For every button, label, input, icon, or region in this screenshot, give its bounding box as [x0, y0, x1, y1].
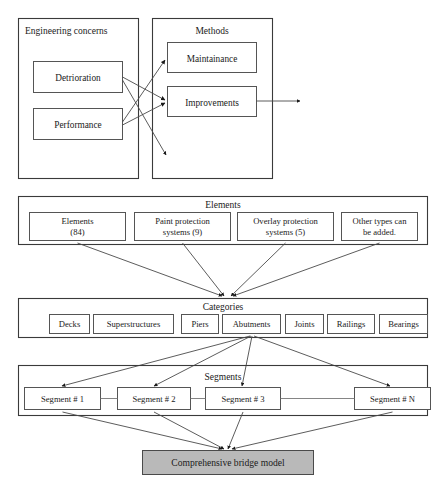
panel-elements-title: Elements — [205, 200, 241, 210]
node-comprehensive-bridge-model[interactable]: Comprehensive bridge model — [143, 451, 314, 475]
node-segment-1[interactable]: Segment # 1 — [25, 388, 101, 410]
node-abutments-label: Abutments — [233, 319, 271, 329]
node-segment-2-label: Segment # 2 — [133, 394, 176, 404]
node-joints[interactable]: Joints — [286, 315, 324, 334]
node-piers-label: Piers — [191, 319, 209, 329]
node-comprehensive-bridge-model-label: Comprehensive bridge model — [171, 457, 285, 468]
node-abutments[interactable]: Abutments — [223, 315, 281, 334]
node-other-types-line1: Other types can — [353, 216, 408, 226]
node-piers[interactable]: Piers — [182, 315, 219, 334]
panel-segments-title: Segments — [205, 372, 242, 382]
node-segment-2[interactable]: Segment # 2 — [118, 388, 191, 410]
connector-abutments-to-segmentN — [254, 336, 390, 386]
node-paint-protection-systems-line1: Paint protection — [155, 216, 210, 226]
connector-other-to-categories — [233, 243, 380, 296]
connector-elements84-to-categories — [78, 243, 223, 296]
node-segment-n[interactable]: Segment # N — [355, 388, 431, 410]
node-decks-label: Decks — [59, 319, 81, 329]
node-paint-protection-systems-line2: systems (9) — [163, 227, 203, 237]
connector-segment3-to-output — [228, 412, 243, 449]
connector-paint-to-categories — [183, 243, 225, 296]
panel-segments: Segments Segment # 1 Segment # 2 Segment… — [19, 366, 431, 416]
node-overlay-protection-systems[interactable]: Overlay protection systems (5) — [238, 213, 334, 241]
connector-abutments-to-segment3 — [242, 336, 252, 386]
node-superstructures[interactable]: Superstructures — [94, 315, 174, 334]
node-decks[interactable]: Decks — [50, 315, 90, 334]
node-elements-84[interactable]: Elements (84) — [30, 213, 126, 241]
node-maintainance[interactable]: Maintainance — [168, 43, 257, 73]
diagram-canvas: Engineering concerns Detrioration Perfor… — [0, 0, 446, 489]
connector-overlay-to-categories — [231, 243, 286, 296]
node-other-types[interactable]: Other types can be added. — [342, 213, 418, 241]
panel-engineering-concerns: Engineering concerns Detrioration Perfor… — [19, 19, 139, 179]
node-detrioration[interactable]: Detrioration — [34, 62, 123, 93]
connector-detrioration-to-improvements — [123, 77, 166, 100]
node-segment-n-label: Segment # N — [370, 394, 416, 404]
node-joints-label: Joints — [294, 319, 315, 329]
panel-engineering-concerns-frame — [19, 19, 139, 179]
node-railings[interactable]: Railings — [328, 315, 375, 334]
node-other-types-line2: be added. — [363, 227, 396, 237]
node-segment-3[interactable]: Segment # 3 — [206, 388, 281, 410]
node-paint-protection-systems[interactable]: Paint protection systems (9) — [135, 213, 231, 241]
connector-segment2-to-output — [154, 412, 224, 449]
panel-categories-title: Categories — [203, 302, 244, 312]
panel-elements: Elements Elements (84) Paint protection … — [19, 197, 428, 245]
panel-engineering-concerns-title: Engineering concerns — [25, 26, 108, 36]
node-improvements-label: Improvements — [185, 98, 239, 108]
node-segment-1-label: Segment # 1 — [41, 394, 84, 404]
node-bearings-label: Bearings — [388, 319, 419, 329]
connector-performance-to-improvements — [123, 103, 166, 125]
connector-group-elements-to-categories — [78, 243, 380, 296]
node-detrioration-label: Detrioration — [55, 73, 101, 83]
node-segment-3-label: Segment # 3 — [222, 394, 265, 404]
node-elements-84-line1: Elements — [62, 216, 95, 226]
node-bearings[interactable]: Bearings — [380, 315, 428, 334]
node-superstructures-label: Superstructures — [107, 319, 161, 329]
node-overlay-protection-systems-line1: Overlay protection — [253, 216, 318, 226]
node-overlay-protection-systems-line2: systems (5) — [266, 227, 306, 237]
panel-categories: Categories Decks Superstructures Piers A… — [19, 299, 428, 338]
diagram-svg: Engineering concerns Detrioration Perfor… — [0, 0, 446, 489]
connector-segmentn-to-output — [232, 412, 393, 449]
panel-methods: Methods Maintainance Improvements — [153, 19, 273, 179]
connector-group-segments-to-output — [63, 412, 393, 449]
node-performance[interactable]: Performance — [34, 109, 123, 140]
node-performance-label: Performance — [54, 120, 102, 130]
connector-detrioration-to-open — [123, 80, 167, 155]
node-improvements[interactable]: Improvements — [168, 87, 257, 117]
node-railings-label: Railings — [337, 319, 366, 329]
panel-methods-title: Methods — [195, 26, 229, 36]
node-maintainance-label: Maintainance — [187, 54, 238, 64]
node-elements-84-line2: (84) — [70, 227, 84, 237]
connector-segment1-to-output — [63, 412, 223, 449]
